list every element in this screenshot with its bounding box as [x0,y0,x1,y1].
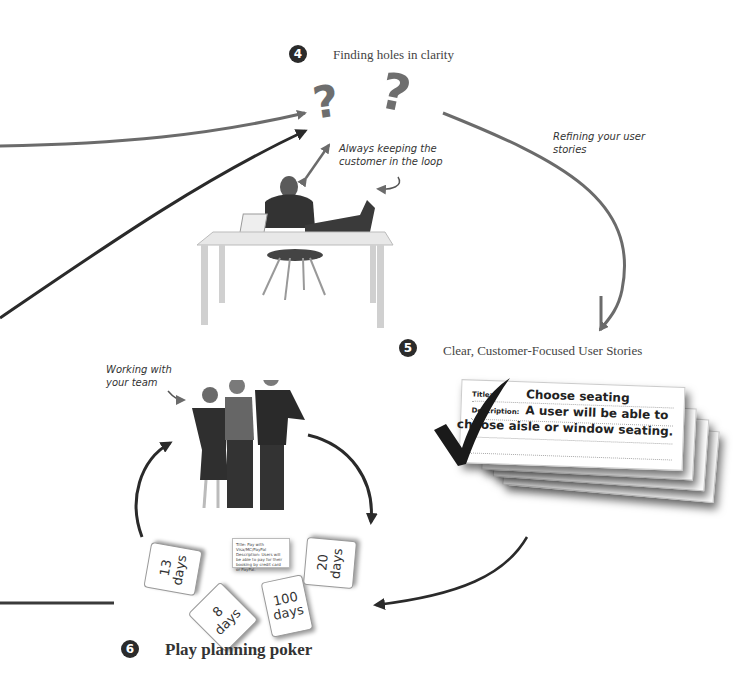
annotation-line: customer in the loop [339,155,443,168]
step-4-label: Finding holes in clarity [333,47,454,63]
team-annotation: Working with your team [106,363,172,389]
poker-card-unit: days [329,548,346,580]
customer-at-desk-illustration [195,170,395,330]
step-5-badge: 5 [399,339,417,357]
annotation-line: Working with [106,363,172,376]
step-6-badge: 6 [121,640,139,658]
arrow-into-clarity-top [0,113,305,146]
checkmark-icon [432,378,512,468]
customer-loop-annotation: Always keeping the customer in the loop [339,142,443,168]
arrow-cards-to-team [136,443,170,537]
step-5-label: Clear, Customer-Focused User Stories [443,343,642,359]
step-4-badge: 4 [289,45,307,63]
team-illustration [170,380,310,520]
arrow-team-to-cards [308,435,371,522]
annotation-line: Refining your user [553,130,645,143]
refining-annotation: Refining your user stories [553,130,645,156]
arrow-stories-to-poker [376,537,527,605]
poker-card: 20 days [303,537,357,589]
flow-arrows [0,0,737,684]
annotation-line: your team [106,376,172,389]
poker-card: 13 days [143,542,202,596]
step-6-label: Play planning poker [165,640,312,660]
poker-card-unit: days [170,554,189,587]
annotation-line: stories [553,143,645,156]
annotation-line: Always keeping the [339,142,443,155]
mini-story-card: Title: Pay with Visa/MC/PayPal Descripti… [232,538,290,568]
